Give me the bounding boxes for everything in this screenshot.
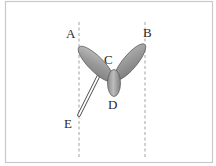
lobe-center-d [108,70,121,97]
diagram-svg: A B C D E [0,0,216,166]
label-b: B [143,25,152,40]
label-d: D [108,97,117,112]
label-a: A [66,26,76,41]
label-c: C [104,52,113,67]
label-e: E [64,116,72,131]
diagram-canvas: A B C D E [0,0,216,166]
